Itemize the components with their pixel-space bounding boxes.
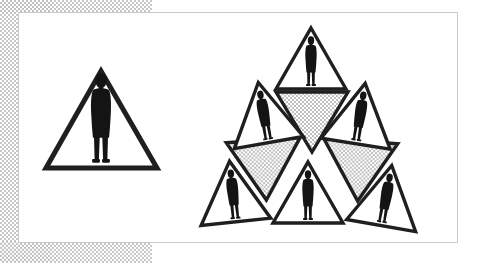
large-triangle-group [46,71,157,168]
up-triangle-top [276,28,346,89]
diagram-canvas: Triangle Subdivision with Human Figures [0,0,483,263]
exploded-sierpinski-cluster [195,28,426,232]
triangle-subdivision-figure [0,0,483,263]
